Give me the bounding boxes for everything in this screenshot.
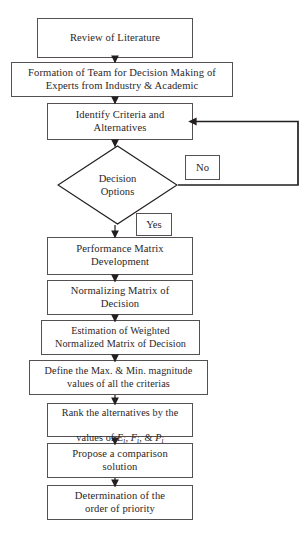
node-rank-the-alternatives[interactable]: Rank the alternatives by the values of E… xyxy=(47,403,193,437)
node-label: Performance Matrix Development xyxy=(51,243,189,269)
node-normalizing-matrix-of-decision[interactable]: Normalizing Matrix of Decision xyxy=(47,280,193,315)
node-label: Propose a comparison solution xyxy=(51,448,189,474)
edge-label-no-text: No xyxy=(196,162,209,173)
node-label: Determination of the order of priority xyxy=(51,490,189,516)
node-propose-a-comparison-solution[interactable]: Propose a comparison solution xyxy=(47,443,193,478)
node-define-max-min-magnitude[interactable]: Define the Max. & Min. magnitude values … xyxy=(29,360,208,395)
node-label-line1: Rank the alternatives by the xyxy=(62,407,179,418)
node-label: Normalizing Matrix of Decision xyxy=(51,285,189,311)
node-label: Identify Criteria and Alternatives xyxy=(51,109,189,135)
node-label: Review of Literature xyxy=(41,32,189,45)
node-performance-matrix-development[interactable]: Performance Matrix Development xyxy=(47,237,193,275)
node-label: Formation of Team for Decision Making of… xyxy=(15,67,229,93)
flowchart-canvas: Review of Literature Formation of Team f… xyxy=(0,0,307,547)
node-estimation-of-weighted-normalized-matrix[interactable]: Estimation of Weighted Normalized Matrix… xyxy=(41,320,200,355)
node-review-of-literature[interactable]: Review of Literature xyxy=(37,18,193,58)
edge-label-yes-text: Yes xyxy=(146,219,161,230)
node-label: Define the Max. & Min. magnitude values … xyxy=(33,365,204,390)
node-identify-criteria-and-alternatives[interactable]: Identify Criteria and Alternatives xyxy=(47,103,193,140)
edge-label-yes: Yes xyxy=(136,213,172,236)
edge-label-no: No xyxy=(185,155,220,180)
node-formation-of-team[interactable]: Formation of Team for Decision Making of… xyxy=(11,62,233,97)
node-label: Estimation of Weighted Normalized Matrix… xyxy=(45,325,196,350)
node-label-line2-prefix: values of xyxy=(76,432,117,443)
node-determination-of-order-of-priority[interactable]: Determination of the order of priority xyxy=(47,485,193,520)
